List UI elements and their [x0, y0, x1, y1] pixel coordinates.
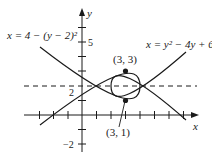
y-tick-label-neg2: −2	[63, 139, 74, 150]
y-axis-label: y	[86, 7, 92, 19]
leader-line-3-1	[119, 101, 125, 127]
x-axis-arrow-icon	[191, 112, 199, 118]
y-tick-label-2: 2	[69, 87, 74, 98]
parabola-region-diagram: x y 5 2 −2 (3, 3) (3, 1) x = 4 − (y − 2)…	[0, 0, 212, 161]
label-point-3-3: (3, 3)	[113, 53, 137, 66]
point-3-3	[123, 68, 128, 73]
y-tick-label-5: 5	[88, 37, 93, 48]
y-axis-arrow-icon	[79, 8, 85, 16]
equation-left-opening: x = 4 − (y − 2)²	[6, 29, 78, 42]
label-point-3-1: (3, 1)	[106, 126, 130, 139]
equation-right-opening: x = y² − 4y + 6	[145, 38, 212, 50]
point-3-1	[123, 98, 128, 103]
x-axis-label: x	[192, 120, 198, 132]
